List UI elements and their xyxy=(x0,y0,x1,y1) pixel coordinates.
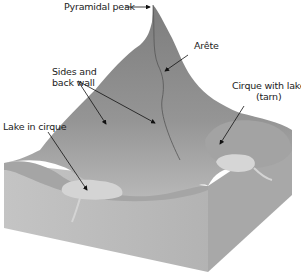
label-arete: Arête xyxy=(194,40,219,51)
label-cirque-line2: (tarn) xyxy=(232,91,301,102)
label-sides-line1: Sides and xyxy=(52,66,97,77)
label-pyramidal-peak: Pyramidal peak xyxy=(64,1,135,12)
glacial-landform-diagram xyxy=(0,0,301,276)
label-lake-in-cirque: Lake in cirque xyxy=(3,121,67,132)
label-sides-line2: back wall xyxy=(52,77,97,88)
label-cirque-with-lake: Cirque with lake (tarn) xyxy=(232,80,301,102)
label-sides-back-wall: Sides and back wall xyxy=(52,66,97,88)
label-cirque-line1: Cirque with lake xyxy=(232,80,301,91)
